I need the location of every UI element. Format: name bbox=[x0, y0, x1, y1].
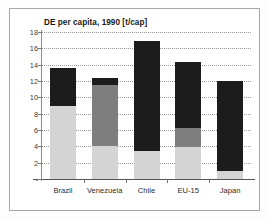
bar-segment-mid-segment[interactable] bbox=[175, 128, 201, 148]
y-tick-mark bbox=[38, 48, 42, 49]
bar-group[interactable] bbox=[92, 32, 118, 179]
y-tick-label: 8 bbox=[20, 109, 38, 118]
x-tick-label-japan: Japan bbox=[220, 186, 241, 195]
x-tick-label-eu-15: EU-15 bbox=[178, 186, 200, 195]
bar-segment-dark-segment[interactable] bbox=[92, 78, 118, 85]
y-tick-mark bbox=[38, 130, 42, 131]
bar-group[interactable] bbox=[217, 32, 243, 179]
x-tick-label-venezuela: Venezuela bbox=[87, 186, 122, 195]
y-tick-label: 18 bbox=[20, 28, 38, 37]
y-tick-mark bbox=[38, 146, 42, 147]
bar-segment-dark-segment[interactable] bbox=[134, 41, 160, 151]
x-axis-labels: BrazilVenezuelaChileEU-15Japan bbox=[42, 186, 251, 200]
bar-group[interactable] bbox=[50, 32, 76, 179]
x-axis-line bbox=[33, 179, 255, 180]
x-tick-mark bbox=[84, 179, 85, 183]
y-tick-label: 10 bbox=[20, 93, 38, 102]
bar-group[interactable] bbox=[175, 32, 201, 179]
bar-segment-light-segment[interactable] bbox=[134, 151, 160, 179]
x-tick-label-brazil: Brazil bbox=[53, 186, 72, 195]
y-tick-mark bbox=[38, 163, 42, 164]
bar-segment-light-segment[interactable] bbox=[175, 147, 201, 179]
bar-group[interactable] bbox=[134, 32, 160, 179]
y-tick-mark bbox=[38, 97, 42, 98]
bar-segment-dark-segment[interactable] bbox=[175, 62, 201, 127]
bar-segment-light-segment[interactable] bbox=[92, 146, 118, 179]
y-tick-label: 12 bbox=[20, 77, 38, 86]
y-tick-label: 6 bbox=[20, 126, 38, 135]
y-tick-mark bbox=[38, 65, 42, 66]
y-tick-label: 16 bbox=[20, 44, 38, 53]
y-tick-mark bbox=[38, 32, 42, 33]
x-tick-mark bbox=[209, 179, 210, 183]
y-tick-label: 2 bbox=[20, 158, 38, 167]
y-tick-mark bbox=[38, 179, 42, 180]
bar-segment-mid-segment[interactable] bbox=[92, 85, 118, 145]
chart-title: DE per capita, 1990 [t/cap] bbox=[44, 18, 147, 27]
y-tick-mark bbox=[38, 114, 42, 115]
plot-area bbox=[42, 32, 251, 179]
bar-segment-light-segment[interactable] bbox=[217, 171, 243, 179]
bar-segment-light-segment[interactable] bbox=[50, 106, 76, 179]
figure-container: DE per capita, 1990 [t/cap] -24681012141… bbox=[0, 0, 270, 220]
y-tick-mark bbox=[38, 81, 42, 82]
x-tick-mark bbox=[126, 179, 127, 183]
x-tick-mark bbox=[167, 179, 168, 183]
y-axis-labels: -24681012141618 bbox=[18, 0, 38, 220]
bar-segment-dark-segment[interactable] bbox=[50, 68, 76, 106]
bar-segment-dark-segment[interactable] bbox=[217, 81, 243, 171]
x-tick-label-chile: Chile bbox=[138, 186, 155, 195]
y-tick-label: 14 bbox=[20, 60, 38, 69]
y-tick-label: 4 bbox=[20, 142, 38, 151]
